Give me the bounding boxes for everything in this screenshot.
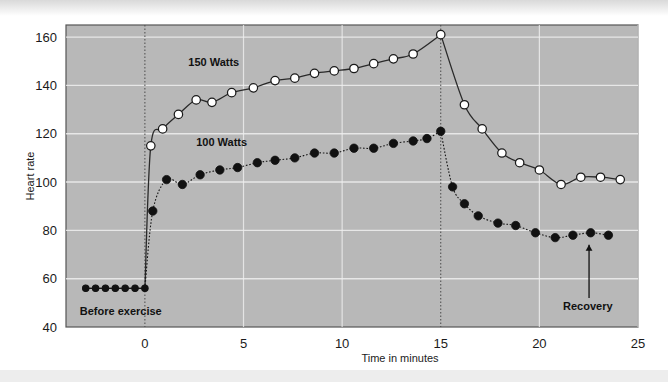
- data-point-open: [249, 84, 257, 92]
- data-point-filled: [531, 229, 539, 237]
- data-point-open: [158, 125, 166, 133]
- scan-shadow-top: [0, 0, 668, 16]
- data-point-open: [596, 173, 604, 181]
- data-point-filled: [271, 156, 279, 164]
- x-axis-tick-label: 10: [335, 336, 349, 351]
- x-axis-tick-label: 15: [434, 336, 448, 351]
- data-point-open: [350, 64, 358, 72]
- x-axis-tick-label: 5: [240, 336, 247, 351]
- data-point-open: [271, 76, 279, 84]
- data-point-filled: [216, 166, 224, 174]
- data-point-open: [310, 69, 318, 77]
- data-point-filled: [474, 212, 482, 220]
- data-point-open: [460, 101, 468, 109]
- heart-rate-chart: 4060801001201401600510152025Heart rateTi…: [0, 0, 668, 382]
- data-point-open: [515, 159, 523, 167]
- data-point-open: [409, 50, 417, 58]
- data-point-filled: [409, 137, 417, 145]
- data-point-filled: [149, 207, 157, 215]
- data-point-filled: [512, 221, 520, 229]
- annotation-recovery: Recovery: [563, 300, 613, 312]
- data-point-filled: [233, 163, 241, 171]
- data-point-filled: [604, 231, 612, 239]
- data-point-open: [535, 166, 543, 174]
- data-point-filled: [350, 144, 358, 152]
- annotation-series-label-150w: 150 Watts: [188, 56, 239, 68]
- data-point-filled: [310, 149, 318, 157]
- data-point-filled: [102, 285, 108, 291]
- data-point-filled: [178, 180, 186, 188]
- data-point-filled: [460, 200, 468, 208]
- data-point-filled: [83, 285, 89, 291]
- data-point-filled: [196, 171, 204, 179]
- data-point-open: [389, 55, 397, 63]
- data-point-filled: [494, 219, 502, 227]
- x-axis-title: Time in minutes: [361, 352, 439, 364]
- data-point-open: [227, 88, 235, 96]
- data-point-filled: [291, 154, 299, 162]
- data-point-filled: [142, 285, 148, 291]
- data-point-filled: [112, 285, 118, 291]
- y-axis-title: Heart rate: [24, 152, 36, 201]
- scan-shadow-bottom: [0, 370, 668, 382]
- data-point-open: [330, 67, 338, 75]
- data-point-filled: [551, 233, 559, 241]
- x-axis-tick-label: 25: [631, 336, 645, 351]
- data-point-open: [147, 142, 155, 150]
- data-point-open: [291, 74, 299, 82]
- data-point-filled: [92, 285, 98, 291]
- data-point-open: [208, 98, 216, 106]
- data-point-filled: [132, 285, 138, 291]
- data-point-filled: [369, 144, 377, 152]
- data-point-filled: [423, 134, 431, 142]
- y-axis-tick-label: 40: [43, 320, 57, 335]
- data-point-filled: [569, 231, 577, 239]
- y-axis-tick-label: 140: [35, 78, 57, 93]
- data-point-filled: [253, 159, 261, 167]
- data-point-filled: [162, 175, 170, 183]
- annotation-before-exercise: Before exercise: [80, 305, 162, 317]
- y-axis-tick-label: 120: [35, 126, 57, 141]
- data-point-open: [369, 59, 377, 67]
- y-axis-tick-label: 80: [43, 223, 57, 238]
- x-axis-tick-label: 20: [532, 336, 546, 351]
- data-point-open: [437, 30, 445, 38]
- data-point-open: [478, 125, 486, 133]
- y-axis-tick-label: 100: [35, 175, 57, 190]
- data-point-open: [192, 96, 200, 104]
- data-point-filled: [437, 127, 445, 135]
- annotation-series-label-100w: 100 Watts: [196, 136, 247, 148]
- data-point-filled: [389, 139, 397, 147]
- data-point-filled: [122, 285, 128, 291]
- chart-figure-root: 4060801001201401600510152025Heart rateTi…: [0, 0, 668, 382]
- data-point-filled: [448, 183, 456, 191]
- data-point-open: [577, 173, 585, 181]
- data-point-open: [616, 175, 624, 183]
- x-axis-tick-label: 0: [141, 336, 148, 351]
- y-axis-tick-label: 160: [35, 30, 57, 45]
- data-point-filled: [586, 229, 594, 237]
- data-point-open: [498, 149, 506, 157]
- y-axis-tick-label: 60: [43, 271, 57, 286]
- data-point-open: [557, 180, 565, 188]
- data-point-open: [174, 110, 182, 118]
- data-point-filled: [330, 149, 338, 157]
